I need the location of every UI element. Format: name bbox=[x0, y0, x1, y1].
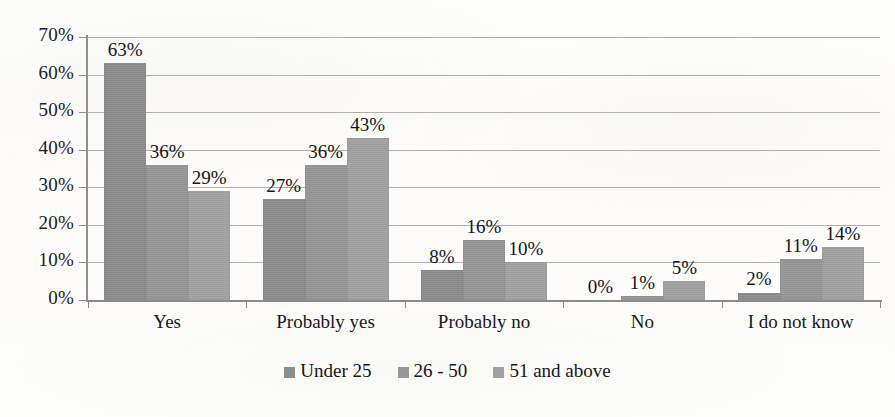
y-axis-tick-label: 30% bbox=[4, 174, 74, 196]
bar bbox=[738, 293, 780, 301]
y-tick-50 bbox=[79, 112, 88, 113]
y-axis-tick-label: 60% bbox=[4, 62, 74, 84]
y-axis-tick-label: 20% bbox=[4, 212, 74, 234]
x-tick-origin bbox=[88, 300, 89, 308]
gridline-70 bbox=[88, 37, 880, 38]
legend-label: Under 25 bbox=[300, 360, 371, 382]
y-tick-10 bbox=[79, 262, 88, 263]
y-axis-tick-label: 50% bbox=[4, 99, 74, 121]
y-tick-70 bbox=[79, 37, 88, 38]
bar-data-label: 5% bbox=[650, 257, 718, 279]
bar bbox=[505, 262, 547, 300]
x-axis-category-label: Probably no bbox=[405, 311, 563, 333]
bar bbox=[780, 259, 822, 300]
legend-item[interactable]: 26 - 50 bbox=[398, 360, 468, 382]
y-tick-60 bbox=[79, 75, 88, 76]
legend-item[interactable]: Under 25 bbox=[284, 360, 371, 382]
bar-data-label: 63% bbox=[91, 39, 159, 61]
x-axis-category-label: Yes bbox=[88, 311, 246, 333]
y-axis-tick-label: 40% bbox=[4, 137, 74, 159]
bar bbox=[263, 199, 305, 300]
x-axis-category-label: Probably yes bbox=[246, 311, 404, 333]
legend-label: 51 and above bbox=[509, 360, 610, 382]
bar-data-label: 29% bbox=[175, 167, 243, 189]
legend-swatch-icon bbox=[398, 367, 409, 378]
gridline-50 bbox=[88, 112, 880, 113]
legend-swatch-icon bbox=[493, 367, 504, 378]
y-tick-20 bbox=[79, 225, 88, 226]
bar bbox=[822, 247, 864, 300]
x-tick bbox=[563, 300, 564, 308]
x-tick bbox=[722, 300, 723, 308]
gridline-40 bbox=[88, 150, 880, 151]
legend-swatch-icon bbox=[284, 367, 295, 378]
bar bbox=[188, 191, 230, 300]
bar-data-label: 14% bbox=[809, 223, 877, 245]
y-tick-0 bbox=[79, 300, 88, 301]
x-tick bbox=[405, 300, 406, 308]
x-tick bbox=[880, 300, 881, 308]
legend-label: 26 - 50 bbox=[414, 360, 468, 382]
x-axis-category-label: No bbox=[563, 311, 721, 333]
bar bbox=[663, 281, 705, 300]
bar bbox=[347, 138, 389, 300]
y-tick-40 bbox=[79, 150, 88, 151]
bar-data-label: 10% bbox=[492, 238, 560, 260]
y-axis-tick-label: 10% bbox=[4, 249, 74, 271]
bar-data-label: 43% bbox=[334, 114, 402, 136]
bar bbox=[104, 63, 146, 300]
plot-area: 63%36%29%27%36%43%8%16%10%0%1%5%2%11%14% bbox=[88, 37, 880, 300]
x-tick bbox=[246, 300, 247, 308]
x-axis-category-label: I do not know bbox=[722, 311, 880, 333]
gridline-60 bbox=[88, 75, 880, 76]
x-axis-line bbox=[86, 300, 882, 302]
chart-legend: Under 2526 - 5051 and above bbox=[0, 360, 895, 382]
bar bbox=[305, 165, 347, 300]
chart-page: 0%10%20%30%40%50%60%70% 63%36%29%27%36%4… bbox=[0, 0, 895, 417]
y-axis-tick-label: 0% bbox=[4, 287, 74, 309]
y-axis-labels: 0%10%20%30%40%50%60%70% bbox=[0, 0, 74, 417]
bar-data-label: 36% bbox=[133, 141, 201, 163]
y-tick-30 bbox=[79, 187, 88, 188]
y-axis-tick-label: 70% bbox=[4, 24, 74, 46]
bar bbox=[421, 270, 463, 300]
legend-item[interactable]: 51 and above bbox=[493, 360, 610, 382]
bar-data-label: 16% bbox=[450, 216, 518, 238]
